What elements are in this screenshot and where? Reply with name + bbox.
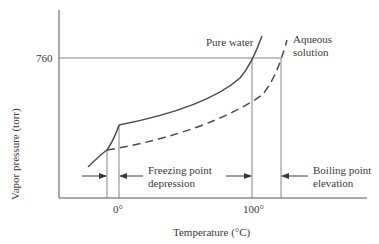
aqueous-solution-curve bbox=[107, 40, 287, 150]
boiling-label-line2: elevation bbox=[313, 177, 353, 189]
ice-curve bbox=[88, 125, 119, 167]
boiling-label-line1: Boiling point bbox=[313, 164, 371, 176]
pure-water-curve bbox=[119, 36, 262, 125]
aqueous-solution-label-line2: solution bbox=[293, 46, 328, 58]
pure-water-label: Pure water bbox=[206, 36, 253, 48]
freezing-label-line1: Freezing point bbox=[148, 164, 212, 176]
freezing-label-line2: depression bbox=[148, 177, 195, 189]
x-tick-0: 0° bbox=[113, 203, 123, 215]
y-axis-label: Vapor pressure (torr) bbox=[9, 108, 21, 200]
x-axis-label: Temperature (°C) bbox=[173, 226, 250, 238]
aqueous-solution-label-line1: Aqueous bbox=[293, 33, 332, 45]
x-tick-100: 100° bbox=[243, 203, 264, 215]
y-tick-760: 760 bbox=[36, 52, 53, 64]
